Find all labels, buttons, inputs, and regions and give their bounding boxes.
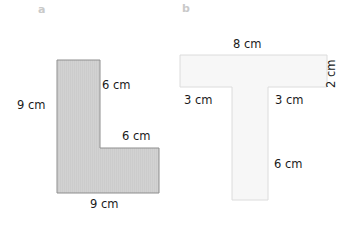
t-shape-polygon	[180, 55, 327, 200]
worksheet-canvas: a 9 cm 6 cm 6 cm 9 cm b 8 cm 2 cm 3 cm 3…	[0, 0, 338, 227]
t-shape-figure	[0, 0, 338, 227]
dimension-label-b-stem-height: 6 cm	[274, 158, 303, 171]
dimension-label-b-right-arm: 3 cm	[275, 94, 304, 107]
dimension-label-b-top-width: 8 cm	[233, 38, 262, 51]
dimension-label-b-top-thickness: 2 cm	[325, 60, 338, 89]
dimension-label-b-left-arm: 3 cm	[184, 94, 213, 107]
